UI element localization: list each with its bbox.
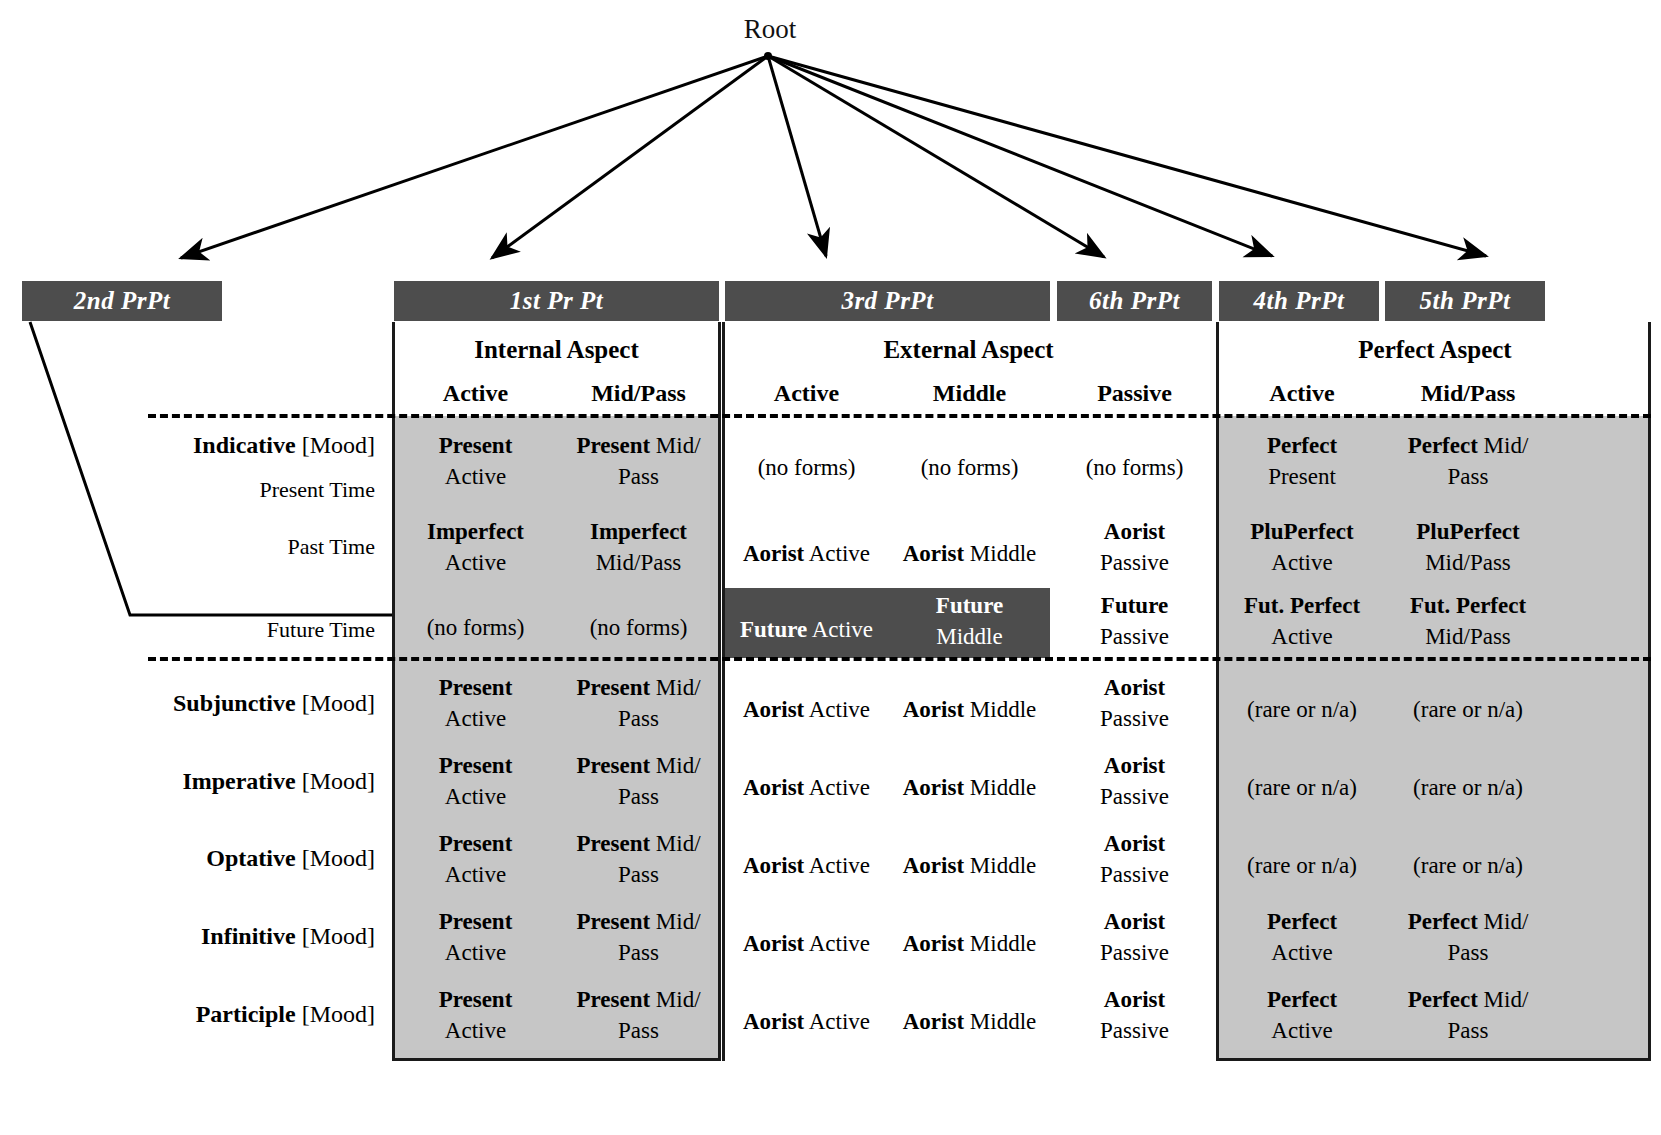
cell-imperative-perfect-active: (rare or n/a) (1219, 772, 1385, 803)
row-label-imperative-suffix: [Mood] (296, 768, 375, 794)
aspect-title-internal: Internal Aspect (394, 336, 719, 364)
cell-subjunctive-internal-active: PresentActive (394, 672, 557, 734)
cell-indicative-future-external-middle: FutureMiddle (888, 590, 1051, 652)
row-label-past-time: Past Time (70, 534, 375, 560)
dashed-separator-top (148, 414, 1651, 418)
cell-indicative-future-perfect-midpass: Fut. PerfectMid/Pass (1385, 590, 1551, 652)
prpt-bar-2nd[interactable]: 2nd PrPt (22, 281, 222, 321)
prpt-bar-4th[interactable]: 4th PrPt (1219, 281, 1379, 321)
root-arrow-tree (0, 0, 1661, 300)
row-label-indicative-mood: Indicative (193, 432, 296, 458)
cell-imperative-external-active: Aorist Active (725, 772, 888, 803)
row-label-infinitive: Infinitive [Mood] (70, 923, 375, 950)
row-label-subjunctive-mood: Subjunctive (173, 690, 296, 716)
cell-indicative-future-external-passive: FuturePassive (1057, 590, 1212, 652)
voice-header-perfect-midpass: Mid/Pass (1385, 380, 1551, 407)
cell-subjunctive-internal-midpass: Present Mid/Pass (557, 672, 720, 734)
cell-subjunctive-external-passive: AoristPassive (1057, 672, 1212, 734)
cell-indicative-present-external-middle: (no forms) (888, 452, 1051, 483)
row-label-infinitive-mood: Infinitive (201, 923, 296, 949)
cell-participle-internal-midpass: Present Mid/Pass (557, 984, 720, 1046)
prpt-bar-6th[interactable]: 6th PrPt (1057, 281, 1212, 321)
voice-header-internal-midpass: Mid/Pass (557, 380, 720, 407)
cell-infinitive-perfect-midpass: Perfect Mid/Pass (1385, 906, 1551, 968)
dashed-separator-bottom (148, 657, 1651, 661)
cell-indicative-past-internal-midpass: ImperfectMid/Pass (557, 516, 720, 578)
cell-infinitive-external-passive: AoristPassive (1057, 906, 1212, 968)
row-label-participle-mood: Participle (196, 1001, 296, 1027)
cell-optative-external-passive: AoristPassive (1057, 828, 1212, 890)
arrow-to-4th-prpt (768, 56, 1272, 256)
prpt-bar-3rd[interactable]: 3rd PrPt (725, 281, 1050, 321)
cell-participle-perfect-active: PerfectActive (1219, 984, 1385, 1046)
cell-subjunctive-external-active: Aorist Active (725, 694, 888, 725)
cell-participle-perfect-midpass: Perfect Mid/Pass (1385, 984, 1551, 1046)
cell-indicative-past-external-passive: AoristPassive (1057, 516, 1212, 578)
cell-optative-perfect-midpass: (rare or n/a) (1385, 850, 1551, 881)
prpt-bar-5th[interactable]: 5th PrPt (1385, 281, 1545, 321)
cell-indicative-present-internal-midpass: Present Mid/Pass (557, 430, 720, 492)
voice-header-perfect-active: Active (1219, 380, 1385, 407)
root-label: Root (710, 14, 830, 45)
row-label-indicative: Indicative [Mood] (70, 432, 375, 459)
row-label-subjunctive-suffix: [Mood] (296, 690, 375, 716)
cell-participle-internal-active: PresentActive (394, 984, 557, 1046)
row-label-imperative: Imperative [Mood] (70, 768, 375, 795)
arrow-to-1st-prpt (492, 56, 768, 258)
cell-indicative-past-external-active: Aorist Active (725, 538, 888, 569)
cell-infinitive-internal-active: PresentActive (394, 906, 557, 968)
cell-participle-external-active: Aorist Active (725, 1006, 888, 1037)
cell-imperative-internal-active: PresentActive (394, 750, 557, 812)
row-label-participle: Participle [Mood] (70, 1001, 375, 1028)
cell-optative-external-middle: Aorist Middle (888, 850, 1051, 881)
cell-infinitive-external-active: Aorist Active (725, 928, 888, 959)
row-label-present-time: Present Time (70, 477, 375, 503)
arrow-to-2nd-prpt (181, 56, 768, 258)
row-label-subjunctive: Subjunctive [Mood] (70, 690, 375, 717)
cell-indicative-present-perfect-active: PerfectPresent (1219, 430, 1385, 492)
voice-header-external-passive: Passive (1057, 380, 1212, 407)
aspect-title-external: External Aspect (725, 336, 1212, 364)
row-label-participle-suffix: [Mood] (296, 1001, 375, 1027)
cell-optative-internal-midpass: Present Mid/Pass (557, 828, 720, 890)
cell-indicative-future-external-active: Future Active (725, 614, 888, 645)
cell-optative-perfect-active: (rare or n/a) (1219, 850, 1385, 881)
row-label-imperative-mood: Imperative (182, 768, 295, 794)
cell-subjunctive-perfect-active: (rare or n/a) (1219, 694, 1385, 725)
cell-indicative-past-perfect-midpass: PluPerfectMid/Pass (1385, 516, 1551, 578)
cell-infinitive-perfect-active: PerfectActive (1219, 906, 1385, 968)
voice-header-external-middle: Middle (888, 380, 1051, 407)
cell-participle-external-middle: Aorist Middle (888, 1006, 1051, 1037)
cell-imperative-external-middle: Aorist Middle (888, 772, 1051, 803)
arrow-to-5th-prpt (768, 56, 1486, 256)
row-label-infinitive-suffix: [Mood] (296, 923, 375, 949)
cell-indicative-present-external-active: (no forms) (725, 452, 888, 483)
aspect-title-perfect: Perfect Aspect (1219, 336, 1651, 364)
cell-indicative-past-perfect-active: PluPerfectActive (1219, 516, 1385, 578)
cell-participle-external-passive: AoristPassive (1057, 984, 1212, 1046)
prpt-bar-1st[interactable]: 1st Pr Pt (394, 281, 719, 321)
row-label-future-time: Future Time (70, 617, 375, 643)
cell-indicative-present-internal-active: PresentActive (394, 430, 557, 492)
cell-imperative-external-passive: AoristPassive (1057, 750, 1212, 812)
row-label-optative: Optative [Mood] (70, 845, 375, 872)
cell-subjunctive-perfect-midpass: (rare or n/a) (1385, 694, 1551, 725)
verb-paradigm-diagram: Root 2nd PrPt 1st Pr Pt 3rd PrPt 6th PrP… (0, 0, 1661, 1135)
cell-indicative-present-perfect-midpass: Perfect Mid/Pass (1385, 430, 1551, 492)
row-label-indicative-suffix: [Mood] (296, 432, 375, 458)
cell-indicative-future-perfect-active: Fut. PerfectActive (1219, 590, 1385, 652)
cell-imperative-internal-midpass: Present Mid/Pass (557, 750, 720, 812)
row-label-optative-suffix: [Mood] (296, 845, 375, 871)
cell-indicative-past-external-middle: Aorist Middle (888, 538, 1051, 569)
cell-indicative-present-external-passive: (no forms) (1057, 452, 1212, 483)
cell-infinitive-external-middle: Aorist Middle (888, 928, 1051, 959)
cell-infinitive-internal-midpass: Present Mid/Pass (557, 906, 720, 968)
voice-header-external-active: Active (725, 380, 888, 407)
cell-subjunctive-external-middle: Aorist Middle (888, 694, 1051, 725)
cell-indicative-past-internal-active: ImperfectActive (394, 516, 557, 578)
cell-indicative-future-internal-active: (no forms) (394, 612, 557, 643)
cell-imperative-perfect-midpass: (rare or n/a) (1385, 772, 1551, 803)
cell-optative-internal-active: PresentActive (394, 828, 557, 890)
row-label-optative-mood: Optative (206, 845, 295, 871)
voice-header-internal-active: Active (394, 380, 557, 407)
